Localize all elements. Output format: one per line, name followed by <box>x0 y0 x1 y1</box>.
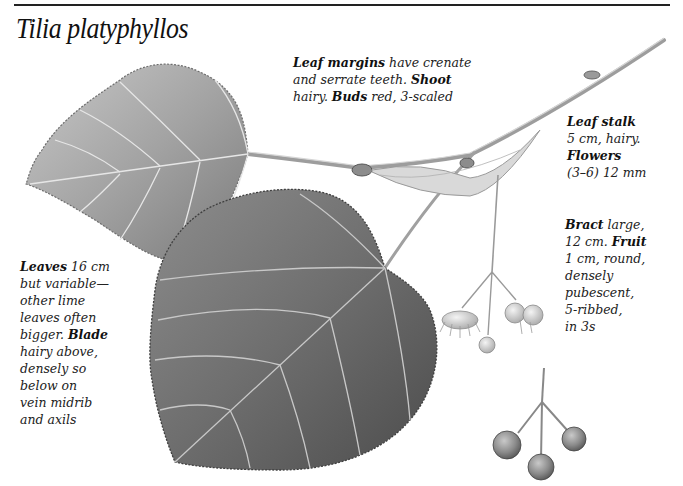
note-text: red, 3-scaled <box>367 89 453 104</box>
keyword-buds: Buds <box>332 89 367 104</box>
note-leaves: Leaves 16 cm but variable— other lime le… <box>20 258 110 428</box>
keyword-bract: Bract <box>565 217 604 232</box>
note-text: but variable— <box>20 275 110 292</box>
note-bract: Bract large, 12 cm. Fruit 1 cm, round, d… <box>565 216 647 335</box>
note-text: in 3s <box>565 318 647 335</box>
note-text: leaves often <box>20 309 110 326</box>
note-text: large, <box>604 217 645 232</box>
note-text: pubescent, <box>565 284 647 301</box>
keyword-leaves: Leaves <box>20 259 67 274</box>
note-text: hairy. <box>293 89 332 104</box>
lower-leaf <box>150 189 437 470</box>
note-leaf-margins: Leaf margins have crenate and serrate te… <box>293 54 471 105</box>
note-text: 16 cm <box>67 259 110 274</box>
note-text: have crenate <box>385 55 471 70</box>
note-text: 5-ribbed, <box>565 301 647 318</box>
keyword-leaf-margins: Leaf margins <box>293 55 385 70</box>
keyword-flowers: Flowers <box>567 148 621 163</box>
note-text: densely <box>565 267 647 284</box>
note-text: 12 cm. <box>565 234 612 249</box>
fruit-cluster <box>493 368 586 480</box>
note-text: 5 cm, hairy. <box>567 131 641 146</box>
note-text: hairy above, <box>20 343 110 360</box>
keyword-blade: Blade <box>68 327 108 342</box>
note-text: bigger. <box>20 327 68 342</box>
flower-cluster <box>440 175 543 353</box>
note-text: 1 cm, round, <box>565 250 647 267</box>
keyword-fruit: Fruit <box>612 234 647 249</box>
keyword-shoot: Shoot <box>411 72 452 87</box>
note-text: (3–6) 12 mm <box>567 165 646 180</box>
keyword-leaf-stalk: Leaf stalk <box>567 114 636 129</box>
note-text: and axils <box>20 411 110 428</box>
note-text: other lime <box>20 292 110 309</box>
note-text: vein midrib <box>20 394 110 411</box>
note-leaf-stalk: Leaf stalk 5 cm, hairy. Flowers (3–6) 12… <box>567 113 646 181</box>
note-text: below on <box>20 377 110 394</box>
note-text: densely so <box>20 360 110 377</box>
note-text: and serrate teeth. <box>293 72 411 87</box>
